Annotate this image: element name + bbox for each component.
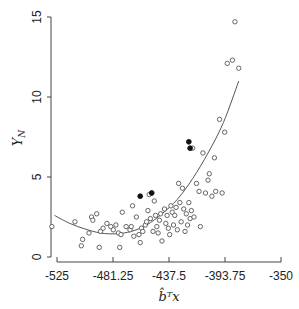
data-point <box>220 191 224 195</box>
data-point <box>156 231 160 235</box>
x-tick-label: -350 <box>269 269 293 283</box>
data-point <box>175 228 179 232</box>
data-point <box>230 58 234 62</box>
data-point <box>225 61 229 65</box>
data-point <box>50 224 54 228</box>
data-point <box>111 228 115 232</box>
data-point <box>214 189 218 193</box>
data-point <box>155 224 159 228</box>
data-point <box>164 221 168 225</box>
x-tick-label: -481.25 <box>93 269 134 283</box>
data-point <box>151 229 155 233</box>
data-point <box>183 229 187 233</box>
data-point <box>187 200 191 204</box>
data-point <box>174 205 178 209</box>
data-point <box>158 212 162 216</box>
data-point <box>212 156 216 160</box>
data-point <box>97 245 101 249</box>
y-tick-label: 5 <box>30 173 44 180</box>
data-point <box>105 221 109 225</box>
data-point <box>157 218 161 222</box>
x-tick-label: -525 <box>45 269 69 283</box>
data-point <box>233 20 237 24</box>
data-point <box>169 204 173 208</box>
data-point <box>222 130 226 134</box>
data-point <box>197 189 201 193</box>
data-point <box>94 212 98 216</box>
data-point <box>184 212 188 216</box>
data-point <box>167 232 171 236</box>
data-point <box>91 218 95 222</box>
axis-labels: 051015-525-481.25-437.5-393.75-350b̂ᵀxYN <box>10 10 293 304</box>
data-point <box>160 239 164 243</box>
data-point <box>207 172 211 176</box>
data-point <box>129 224 133 228</box>
data-point <box>120 210 124 214</box>
data-point <box>144 220 148 224</box>
highlighted-point <box>138 194 143 199</box>
data-point <box>176 181 180 185</box>
data-point <box>141 229 145 233</box>
data-point <box>206 178 210 182</box>
y-tick-label: 15 <box>30 10 44 24</box>
data-point <box>148 216 152 220</box>
y-axis-title: YN <box>10 129 27 147</box>
x-tick-label: -437.5 <box>152 269 186 283</box>
data-point <box>185 223 189 227</box>
data-point <box>189 208 193 212</box>
data-point <box>137 232 141 236</box>
data-point <box>153 213 157 217</box>
x-axis-title: b̂ᵀx <box>158 287 180 304</box>
data-point <box>87 231 91 235</box>
data-point <box>119 232 123 236</box>
data-point <box>166 226 170 230</box>
scatter-chart: 051015-525-481.25-437.5-393.75-350b̂ᵀxYN <box>0 0 299 309</box>
data-point <box>179 220 183 224</box>
y-tick-label: 10 <box>30 90 44 104</box>
data-points <box>50 20 241 250</box>
highlighted-point <box>186 139 191 144</box>
data-point <box>171 223 175 227</box>
data-point <box>201 151 205 155</box>
data-point <box>114 223 118 227</box>
data-point <box>79 244 83 248</box>
data-point <box>162 207 166 211</box>
data-point <box>165 213 169 217</box>
data-point <box>198 224 202 228</box>
data-point <box>182 207 186 211</box>
data-point <box>132 234 136 238</box>
data-point <box>134 215 138 219</box>
data-point <box>217 117 221 121</box>
data-point <box>152 199 156 203</box>
data-point <box>237 66 241 70</box>
data-point <box>173 213 177 217</box>
data-point <box>180 186 184 190</box>
data-point <box>130 204 134 208</box>
data-point <box>101 226 105 230</box>
x-tick-label: -393.75 <box>205 269 246 283</box>
data-point <box>138 240 142 244</box>
data-point <box>80 237 84 241</box>
data-point <box>124 224 128 228</box>
data-point <box>210 194 214 198</box>
data-point <box>194 181 198 185</box>
data-point <box>203 191 207 195</box>
data-point <box>73 220 77 224</box>
data-point <box>118 245 122 249</box>
y-tick-label: 0 <box>30 253 44 260</box>
highlighted-point <box>188 146 193 151</box>
highlighted-point <box>149 191 154 196</box>
data-point <box>146 208 150 212</box>
data-point <box>192 215 196 219</box>
data-point <box>178 200 182 204</box>
